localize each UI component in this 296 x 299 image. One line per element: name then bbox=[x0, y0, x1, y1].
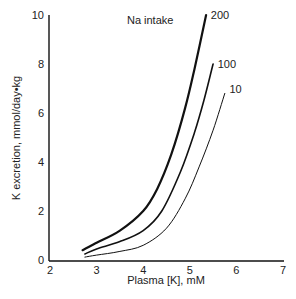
legend-title: Na intake bbox=[127, 14, 173, 26]
y-tick-label: 4 bbox=[38, 156, 44, 168]
curve-na-intake-200 bbox=[83, 15, 207, 250]
curve-na-intake-100 bbox=[85, 64, 213, 254]
annotations: Na intake20010010 bbox=[127, 9, 242, 95]
x-axis-label: Plasma [K], mM bbox=[127, 274, 205, 286]
x-tick-label: 6 bbox=[233, 264, 239, 276]
axes bbox=[49, 15, 284, 261]
series-label-200: 200 bbox=[211, 9, 229, 21]
x-tick-label: 2 bbox=[47, 264, 53, 276]
series-label-10: 10 bbox=[229, 83, 241, 95]
x-tick-label: 7 bbox=[280, 264, 286, 276]
curve-na-intake-10 bbox=[85, 93, 225, 257]
y-tick-label: 2 bbox=[38, 205, 44, 217]
y-tick-label: 8 bbox=[38, 58, 44, 70]
series-label-100: 100 bbox=[218, 58, 236, 70]
y-tick-label: 0 bbox=[38, 254, 44, 266]
y-tick-labels: 0246810 bbox=[32, 9, 44, 266]
y-axis-label: K excretion, mmol/day•kg bbox=[10, 76, 22, 200]
y-tick-label: 6 bbox=[38, 107, 44, 119]
y-tick-label: 10 bbox=[32, 9, 44, 21]
data-series bbox=[83, 15, 225, 257]
potassium-excretion-chart: 0246810 234567 Na intake20010010 Plasma … bbox=[0, 0, 296, 299]
x-tick-label: 3 bbox=[94, 264, 100, 276]
